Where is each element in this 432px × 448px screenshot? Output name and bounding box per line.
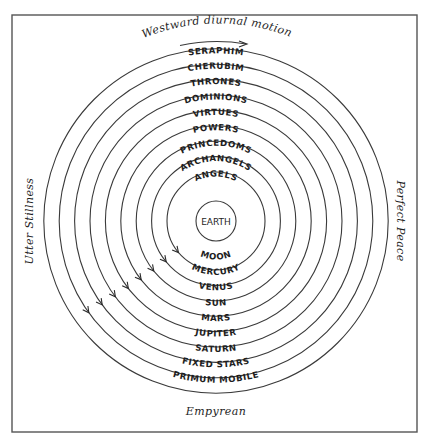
celestial-sphere-label: SATURN xyxy=(195,342,238,354)
celestial-sphere-label: MOON xyxy=(199,249,232,262)
celestial-sphere-label: MARS xyxy=(201,312,232,323)
eastward-motion-arrows xyxy=(83,246,179,313)
angelic-order-label: SERAPHIM xyxy=(187,45,244,57)
celestial-sphere-label: JUPITER xyxy=(194,327,238,339)
celestial-sphere-label: FIXED STARS xyxy=(181,355,250,369)
ring-labels: ANGELSMOONARCHANGELSMERCURYPRINCEDOMSVEN… xyxy=(172,45,260,384)
angelic-order-label: THRONES xyxy=(190,76,243,88)
angelic-order-label: ANGELS xyxy=(193,168,240,183)
celestial-sphere-label: SUN xyxy=(205,297,227,308)
earth-label: EARTH xyxy=(201,217,231,227)
perfect-peace-label: Perfect Peace xyxy=(394,179,407,261)
angelic-order-label: POWERS xyxy=(192,122,240,135)
westward-motion-arrow-icon xyxy=(180,42,246,46)
angelic-order-label: DOMINIONS xyxy=(183,91,249,105)
angelic-order-label: PRINCEDOMS xyxy=(179,138,254,156)
motion-arrowhead-icon xyxy=(83,306,89,313)
diagram-title: Westward diurnal motion xyxy=(140,13,294,40)
utter-stillness-label: Utter Stillness xyxy=(23,178,36,265)
angelic-order-label: VIRTUES xyxy=(192,107,240,119)
celestial-sphere-label: PRIMUM MOBILE xyxy=(172,369,260,385)
celestial-sphere-label: VENUS xyxy=(198,280,234,292)
cosmos-diagram: Westward diurnal motion ANGELSMOONARCHAN… xyxy=(0,0,432,448)
empyrean-label: Empyrean xyxy=(185,405,246,418)
angelic-order-label: CHERUBIM xyxy=(187,61,245,74)
celestial-sphere-label: MERCURY xyxy=(191,262,242,277)
